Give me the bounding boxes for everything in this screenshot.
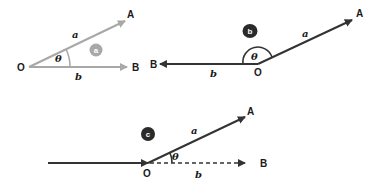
- vector-a-arrow: [148, 117, 245, 163]
- point-a-label: A: [247, 106, 254, 117]
- theta-label: θ: [172, 151, 179, 162]
- origin-label: O: [254, 67, 262, 78]
- badge-a-label: a: [94, 46, 99, 55]
- vector-a-label: a: [191, 125, 197, 136]
- point-a-label: A: [127, 9, 134, 20]
- badge-c-label: c: [146, 130, 151, 139]
- theta-label: θ: [55, 53, 62, 64]
- diagram-a: a O A B a b θ: [17, 9, 139, 82]
- point-a-label: A: [356, 8, 363, 19]
- vector-b-label: b: [195, 169, 202, 180]
- vector-b-label: b: [210, 68, 217, 79]
- vector-a-label: a: [302, 28, 308, 39]
- vector-a-label: a: [72, 29, 78, 40]
- diagram-b: b O A B a b θ: [150, 8, 363, 79]
- vector-a-arrow: [258, 20, 352, 64]
- vector-b-label: b: [75, 71, 82, 82]
- theta-label: θ: [251, 51, 258, 62]
- vector-a-arrow: [29, 21, 125, 67]
- badge-b-label: b: [248, 27, 253, 36]
- vector-angle-diagrams: a O A B a b θ b O A B a b θ c O A B a b …: [0, 0, 383, 190]
- point-b-label: B: [260, 158, 267, 169]
- angle-arc: [66, 49, 70, 67]
- point-b-label: B: [150, 59, 157, 70]
- point-b-label: B: [132, 62, 139, 73]
- origin-label: O: [17, 62, 25, 73]
- diagram-c: c O A B a b θ: [48, 106, 267, 180]
- origin-label: O: [143, 168, 151, 179]
